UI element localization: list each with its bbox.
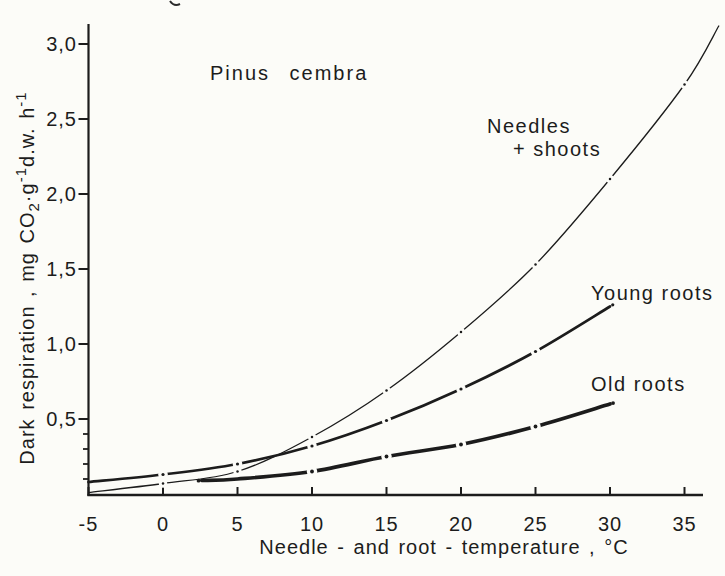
x-tick-label: 0 <box>157 513 169 535</box>
data-point-dot <box>459 387 462 390</box>
y-axis-title-part: ·g <box>16 182 38 202</box>
series-curve-needles-shoots <box>89 26 719 493</box>
y-tick-label: 1,0 <box>46 333 77 355</box>
x-axis-title: Needle - and root - temperature , °C <box>259 536 628 558</box>
scanned-figure-page: 3,02,52,01,51,00,5 -505101520253035 Pinu… <box>0 0 725 576</box>
x-tick-label: 25 <box>523 513 547 535</box>
curve-group <box>89 26 719 493</box>
stray-ink-mark <box>170 1 180 5</box>
species-label: Pinus cembra <box>210 62 368 84</box>
x-tick-label: -5 <box>79 513 99 535</box>
data-point-dot <box>162 482 165 485</box>
data-point-dot <box>310 470 314 474</box>
y-tick-group: 3,02,52,01,51,00,5 <box>46 33 88 479</box>
x-tick-label: 5 <box>231 513 243 535</box>
data-point-dot <box>460 331 463 334</box>
data-point-dot <box>534 263 537 266</box>
respiration-chart: 3,02,52,01,51,00,5 -505101520253035 Pinu… <box>0 0 725 576</box>
y-axis-title-part: -1 <box>12 91 29 106</box>
y-tick-label: 2,5 <box>46 108 77 130</box>
x-tick-label: 20 <box>449 513 473 535</box>
series-curve-young-roots <box>89 307 611 483</box>
y-axis-title: Dark respiration , mg CO2·g-1d.w. h-1 <box>12 91 42 464</box>
x-tick-label: 35 <box>672 513 696 535</box>
data-point-dot <box>236 470 239 473</box>
y-axis-title-part: 2 <box>25 202 42 211</box>
x-tick-label: 10 <box>300 513 324 535</box>
data-point-dot <box>385 455 389 459</box>
data-point-dot <box>385 419 388 422</box>
data-point-dot <box>385 389 388 392</box>
data-point-dot <box>459 443 463 447</box>
y-axis-title-part: d.w. h <box>16 107 38 167</box>
curve-label-young-roots: Young roots <box>591 282 714 304</box>
curve-label-old-roots: Old roots <box>591 373 686 395</box>
data-point-dot <box>534 425 538 429</box>
curve-label-needles-line1: Needles <box>487 115 571 137</box>
y-tick-label: 3,0 <box>46 33 77 55</box>
y-axis-title-part: Dark respiration , mg CO <box>16 211 38 464</box>
curve-tip-dot <box>611 401 615 405</box>
data-point-dot <box>609 178 612 181</box>
data-point-dot <box>310 444 313 447</box>
y-tick-label: 1,5 <box>46 258 77 280</box>
data-point-dot <box>683 83 686 86</box>
series-curve-old-roots <box>202 404 610 481</box>
data-point-dot <box>534 350 537 353</box>
curve-label-needles-line2: + shoots <box>513 138 601 160</box>
x-tick-label: 30 <box>598 513 622 535</box>
data-point-dot <box>311 436 314 439</box>
y-tick-label: 0,5 <box>46 408 77 430</box>
data-point-dot <box>161 473 164 476</box>
y-tick-label: 2,0 <box>46 183 77 205</box>
data-point-dot <box>236 462 239 465</box>
y-axis-title-part: -1 <box>12 167 29 182</box>
x-tick-label: 15 <box>374 513 398 535</box>
curve-tip-dot <box>197 479 201 483</box>
